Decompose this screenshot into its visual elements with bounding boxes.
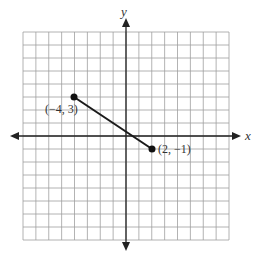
x-axis-right-arrow-icon <box>232 132 241 140</box>
y-axis-up-arrow-icon <box>122 18 130 27</box>
y-axis-down-arrow-icon <box>122 242 130 251</box>
coordinate-plane: x y (−4, 3) (2, −1) <box>0 0 256 256</box>
point-a-label: (−4, 3) <box>45 102 78 116</box>
x-axis-label: x <box>244 128 251 143</box>
point-b <box>149 146 156 153</box>
point-b-label: (2, −1) <box>158 142 191 156</box>
x-axis-left-arrow-icon <box>10 132 19 140</box>
y-axis-label: y <box>119 4 127 19</box>
point-a <box>71 94 78 101</box>
